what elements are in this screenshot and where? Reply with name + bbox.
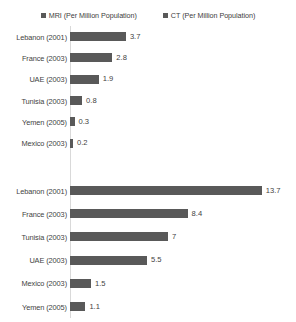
chart-row: Tunisia (2003) 7	[70, 225, 296, 248]
category-label: Lebanon (2001)	[16, 32, 67, 41]
bar	[70, 302, 85, 311]
category-label: Tunisia (2003)	[21, 232, 67, 241]
bar	[70, 117, 75, 126]
category-label: Lebanon (2001)	[16, 186, 67, 195]
bar-value-label: 7	[172, 233, 176, 241]
bar	[70, 256, 147, 265]
bar	[70, 32, 126, 41]
chart-row: Lebanon (2001) 3.7	[70, 26, 296, 47]
bar-value-label: 1.1	[89, 303, 100, 311]
category-label: France (2003)	[22, 53, 67, 62]
legend-item-ct: CT (Per Million Population)	[163, 11, 255, 20]
bar-value-label: 0.3	[79, 118, 90, 126]
chart-row: Yemen (2005) 0.3	[70, 111, 296, 132]
chart-row: France (2003) 8.4	[70, 202, 296, 225]
chart-row: Lebanon (2001) 13.7	[70, 179, 296, 202]
bar	[70, 53, 112, 62]
bar-value-label: 5.5	[151, 256, 162, 264]
square-marker-icon	[41, 13, 46, 18]
category-label: UAE (2003)	[29, 75, 67, 84]
category-label: France (2003)	[22, 209, 67, 218]
bar-value-label: 0.2	[77, 139, 88, 147]
bar	[70, 279, 91, 288]
ct-bar-chart: Lebanon (2001) 13.7 France (2003) 8.4 Tu…	[0, 179, 296, 318]
bar	[70, 232, 168, 241]
chart-row: Mexico (2003) 0.2	[70, 132, 296, 153]
chart-row: France (2003) 2.8	[70, 47, 296, 68]
legend-item-mri: MRI (Per Million Population)	[41, 11, 137, 20]
legend-label-mri: MRI (Per Million Population)	[49, 11, 137, 20]
bar	[70, 209, 188, 218]
bar	[70, 186, 262, 195]
bar-value-label: 3.7	[130, 33, 141, 41]
category-label: Yemen (2005)	[22, 302, 67, 311]
bar-value-label: 2.8	[116, 54, 127, 62]
bar	[70, 75, 99, 84]
chart-row: Mexico (2003) 1.5	[70, 272, 296, 295]
category-label: Tunisia (2003)	[21, 96, 67, 105]
bar	[70, 139, 73, 148]
legend-label-ct: CT (Per Million Population)	[171, 11, 255, 20]
category-label: Mexico (2003)	[21, 279, 67, 288]
bar-value-label: 1.5	[95, 280, 106, 288]
chart-row: UAE (2003) 1.9	[70, 69, 296, 90]
category-label: UAE (2003)	[29, 256, 67, 265]
bar	[70, 96, 82, 105]
bar-value-label: 0.8	[86, 97, 97, 105]
bar-value-label: 8.4	[192, 210, 203, 218]
chart-separator-gap	[0, 154, 296, 179]
mri-bar-chart: Lebanon (2001) 3.7 France (2003) 2.8 UAE…	[0, 26, 296, 154]
chart-row: UAE (2003) 5.5	[70, 249, 296, 272]
bar-value-label: 1.9	[103, 75, 114, 83]
square-marker-icon	[163, 13, 168, 18]
category-label: Yemen (2005)	[22, 117, 67, 126]
chart-row: Yemen (2005) 1.1	[70, 295, 296, 318]
chart-legend: MRI (Per Million Population) CT (Per Mil…	[0, 0, 296, 26]
axis-continuation	[70, 154, 71, 179]
chart-row: Tunisia (2003) 0.8	[70, 90, 296, 111]
category-label: Mexico (2003)	[21, 139, 67, 148]
bar-value-label: 13.7	[266, 187, 281, 195]
